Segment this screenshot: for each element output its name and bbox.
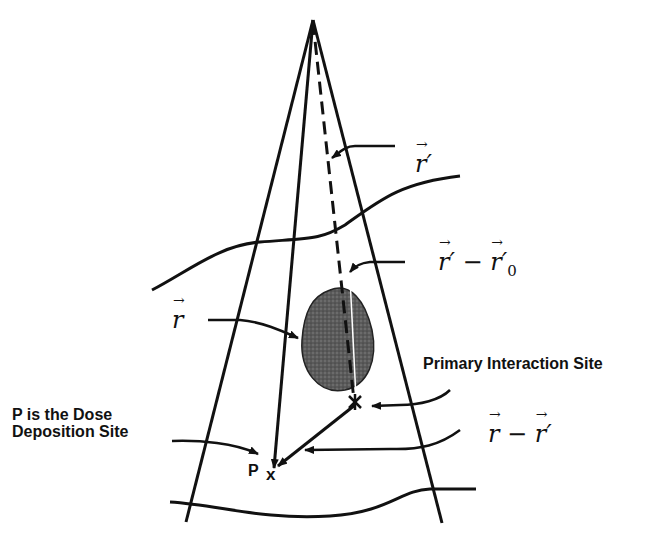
dose-site-line-2: Deposition Site: [12, 423, 128, 440]
dose-site-line-1: P is the Dose: [12, 406, 128, 423]
r-prime-symbol: r′: [438, 248, 455, 276]
r0-prime-symbol: r′: [490, 248, 507, 276]
point-p-marker-icon: x: [266, 466, 275, 483]
beam-cone: [186, 20, 442, 523]
label-r-prime-minus-r0: r′ − r′0: [438, 248, 517, 280]
label-primary-interaction-site: Primary Interaction Site: [423, 355, 603, 372]
vector-r: [274, 20, 313, 468]
r-symbol: r: [488, 420, 499, 448]
interaction-site-star-icon: [349, 394, 361, 410]
r-prime-symbol: r′: [415, 150, 432, 178]
vector-r-minus-r-prime: [278, 405, 355, 466]
label-r: r: [172, 306, 183, 334]
label-point-p: P: [248, 462, 259, 479]
dose-diagram-canvas: [0, 0, 645, 541]
tumor-region: [302, 288, 374, 391]
r0-subscript: 0: [507, 262, 517, 280]
label-dose-deposition-site: P is the Dose Deposition Site: [12, 406, 128, 440]
minus-sign: −: [455, 248, 490, 276]
label-r-minus-r-prime: r − r′: [488, 420, 552, 448]
r-symbol: r: [172, 306, 183, 334]
minus-sign: −: [499, 420, 534, 448]
label-r-prime: r′: [415, 150, 432, 178]
r-prime-symbol: r′: [535, 420, 552, 448]
